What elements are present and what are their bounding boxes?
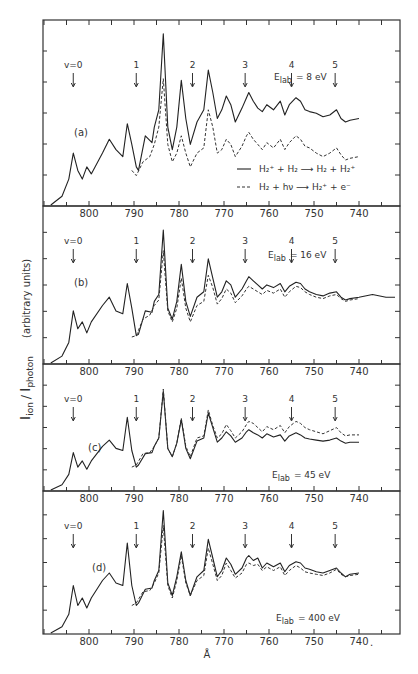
x-tick-label: 770 bbox=[214, 208, 233, 219]
x-tick-label: 770 bbox=[214, 493, 233, 504]
x-tick-label: 760 bbox=[259, 208, 278, 219]
vibrational-marker-label: 1 bbox=[133, 394, 139, 404]
vibrational-marker-label: v=0 bbox=[64, 521, 83, 531]
x-tick-label: 790 bbox=[124, 208, 143, 219]
vibrational-marker-label: 3 bbox=[242, 521, 248, 531]
x-tick-label: 750 bbox=[304, 636, 323, 647]
vibrational-marker-label: 2 bbox=[190, 394, 196, 404]
vibrational-marker-label: 5 bbox=[332, 60, 338, 70]
x-tick-label: 750 bbox=[304, 366, 323, 377]
vibrational-marker-label: 2 bbox=[190, 236, 196, 246]
x-tick-label: 780 bbox=[169, 366, 188, 377]
panel-d: 800790780770760750740v=012345(d)Elab= 40… bbox=[43, 491, 400, 647]
x-tick-label: 740 bbox=[349, 636, 368, 647]
vibrational-marker-label: 5 bbox=[332, 236, 338, 246]
x-axis-label: Å bbox=[204, 648, 211, 660]
panel-frame bbox=[43, 20, 400, 206]
vibrational-marker-label: 1 bbox=[133, 236, 139, 246]
panel-b: 800790780770760750740v=012345(b)Elab= 16… bbox=[43, 206, 400, 377]
vibrational-marker-label: 3 bbox=[242, 60, 248, 70]
vibrational-marker-label: 1 bbox=[133, 60, 139, 70]
x-tick-label: 800 bbox=[79, 493, 98, 504]
panel-frame bbox=[43, 206, 400, 364]
vibrational-marker-label: 3 bbox=[242, 236, 248, 246]
figure-canvas: 800790780770760750740v=012345(a)Elab= 8 … bbox=[0, 0, 418, 674]
x-tick-label: 790 bbox=[124, 493, 143, 504]
x-tick-label: 800 bbox=[79, 366, 98, 377]
vibrational-marker-label: 4 bbox=[289, 394, 295, 404]
photoionization-curve bbox=[132, 251, 359, 337]
elab-annotation: Elab= 8 eV bbox=[274, 72, 327, 85]
x-tick-label: 740 bbox=[349, 208, 368, 219]
vibrational-marker-label: 4 bbox=[289, 60, 295, 70]
vibrational-marker-label: 5 bbox=[332, 521, 338, 531]
x-tick-label: 790 bbox=[124, 366, 143, 377]
trailing-mark: . bbox=[370, 637, 373, 648]
x-tick-label: 760 bbox=[259, 366, 278, 377]
vibrational-marker-label: v=0 bbox=[64, 394, 83, 404]
x-tick-label: 750 bbox=[304, 493, 323, 504]
x-tick-label: 780 bbox=[169, 208, 188, 219]
x-tick-label: 800 bbox=[79, 636, 98, 647]
x-tick-label: 800 bbox=[79, 208, 98, 219]
elab-annotation: Elab= 45 eV bbox=[272, 470, 331, 483]
panel-c: 800790780770760750740v=012345(c)Elab= 45… bbox=[43, 364, 400, 504]
panel-label: (c) bbox=[88, 442, 101, 453]
legend-dashed-label: H₂ + hν ⟶ H₂⁺ + e⁻ bbox=[259, 182, 351, 192]
vibrational-marker-label: 3 bbox=[242, 394, 248, 404]
x-tick-label: 740 bbox=[349, 366, 368, 377]
elab-annotation: Elab= 400 eV bbox=[276, 613, 341, 626]
panel-label: (a) bbox=[74, 127, 88, 138]
x-tick-label: 790 bbox=[124, 636, 143, 647]
vibrational-marker-label: v=0 bbox=[64, 236, 83, 246]
x-tick-label: 750 bbox=[304, 208, 323, 219]
x-tick-label: 770 bbox=[214, 636, 233, 647]
x-tick-label: 780 bbox=[169, 493, 188, 504]
panel-label: (b) bbox=[74, 277, 88, 288]
x-tick-label: 770 bbox=[214, 366, 233, 377]
vibrational-marker-label: 2 bbox=[190, 60, 196, 70]
vibrational-marker-label: 5 bbox=[332, 394, 338, 404]
panel-frame bbox=[43, 364, 400, 491]
charge-transfer-curve bbox=[51, 34, 359, 205]
y-axis-label: Iion/Iphoton(arbitrary units) bbox=[17, 259, 35, 420]
x-tick-label: 740 bbox=[349, 493, 368, 504]
x-tick-label: 760 bbox=[259, 493, 278, 504]
x-tick-label: 760 bbox=[259, 636, 278, 647]
vibrational-marker-label: 4 bbox=[289, 236, 295, 246]
vibrational-marker-label: v=0 bbox=[64, 60, 83, 70]
vibrational-marker-label: 4 bbox=[289, 521, 295, 531]
vibrational-marker-label: 2 bbox=[190, 521, 196, 531]
legend: H₂⁺ + H₂ ⟶ H₂ + H₂⁺H₂ + hν ⟶ H₂⁺ + e⁻ bbox=[237, 164, 355, 192]
legend-solid-label: H₂⁺ + H₂ ⟶ H₂ + H₂⁺ bbox=[259, 164, 355, 174]
vibrational-marker-label: 1 bbox=[133, 521, 139, 531]
x-tick-label: 780 bbox=[169, 636, 188, 647]
elab-annotation: Elab= 16 eV bbox=[268, 250, 327, 263]
panel-label: (d) bbox=[92, 562, 106, 573]
